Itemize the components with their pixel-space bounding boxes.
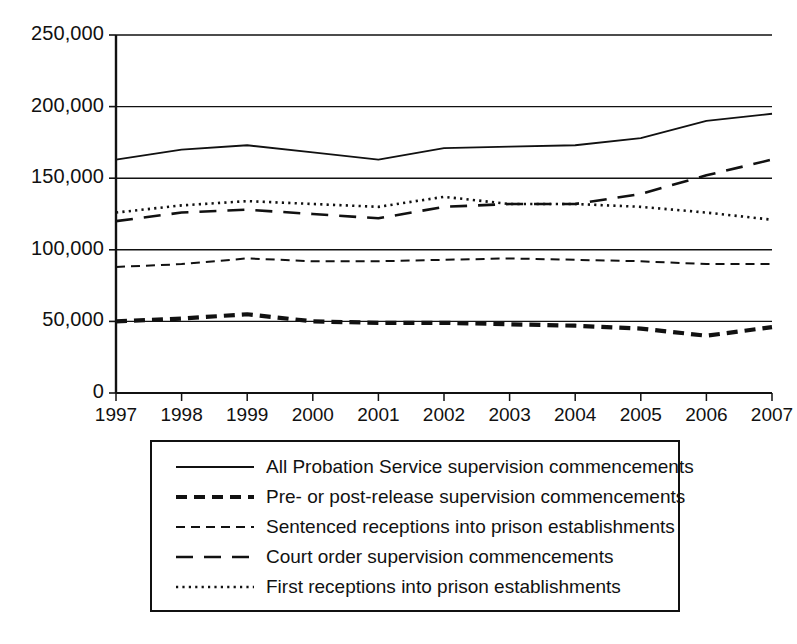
legend-line-swatch [174, 482, 256, 512]
y-axis-tick-label: 250,000 [31, 22, 104, 45]
legend-item: First receptions into prison establishme… [152, 572, 678, 602]
legend-item: Sentenced receptions into prison establi… [152, 512, 678, 542]
x-axis-tick-label: 2001 [347, 404, 409, 426]
series-line [116, 258, 772, 267]
legend-line-swatch [174, 512, 256, 542]
legend-item-label: First receptions into prison establishme… [266, 576, 621, 598]
legend-item-label: Sentenced receptions into prison establi… [266, 516, 675, 538]
y-axis-tick-label: 150,000 [31, 165, 104, 188]
x-axis-tick-label: 1998 [151, 404, 213, 426]
x-axis-tick-label: 2003 [479, 404, 541, 426]
legend-line-swatch [174, 572, 256, 602]
x-axis-tick-label: 2002 [413, 404, 475, 426]
y-axis-tick-label: 50,000 [42, 308, 104, 331]
series-line [116, 314, 772, 335]
x-axis-tick-label: 2007 [741, 404, 797, 426]
legend-line-swatch [174, 542, 256, 572]
y-axis-tick-label: 100,000 [31, 237, 104, 260]
legend-item-label: Pre- or post-release supervision commenc… [266, 486, 685, 508]
legend-item-label: All Probation Service supervision commen… [266, 456, 694, 478]
axes [116, 35, 772, 393]
series-line [116, 197, 772, 220]
x-axis-tick-label: 2004 [544, 404, 606, 426]
legend-item-label: Court order supervision commencements [266, 546, 613, 568]
x-axis-tick-label: 2006 [675, 404, 737, 426]
chart-legend: All Probation Service supervision commen… [150, 440, 680, 612]
legend-line-swatch [174, 452, 256, 482]
y-axis-tick-label: 200,000 [31, 94, 104, 117]
x-axis-tick-label: 1999 [216, 404, 278, 426]
legend-item: Court order supervision commencements [152, 542, 678, 572]
x-axis-tick-label: 1997 [85, 404, 147, 426]
series-line [116, 160, 772, 222]
series-line [116, 114, 772, 160]
axis-ticks [109, 35, 772, 401]
x-axis-tick-label: 2005 [610, 404, 672, 426]
legend-item: Pre- or post-release supervision commenc… [152, 482, 678, 512]
gridlines [116, 35, 772, 393]
legend-item: All Probation Service supervision commen… [152, 452, 678, 482]
data-series-group [116, 114, 772, 336]
x-axis-tick-label: 2000 [282, 404, 344, 426]
y-axis-tick-label: 0 [93, 380, 104, 403]
